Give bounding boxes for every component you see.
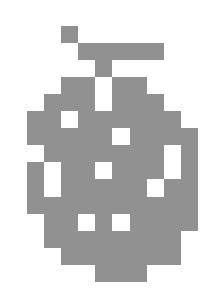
pixel-empty (44, 179, 61, 196)
pixel-empty (27, 231, 44, 248)
pixel-filled (95, 145, 112, 162)
pixel-empty (147, 77, 164, 94)
pixel-filled (61, 26, 78, 43)
pixel-filled (112, 179, 129, 196)
pixel-empty (181, 265, 198, 282)
pixel-filled (164, 128, 181, 145)
pixel-filled (130, 145, 147, 162)
pixel-filled (112, 111, 129, 128)
pixel-filled (27, 162, 44, 179)
pixel-empty (78, 214, 95, 231)
pixel-empty (44, 162, 61, 179)
pixel-filled (78, 111, 95, 128)
pixel-empty (27, 248, 44, 265)
pixel-empty (147, 26, 164, 43)
pixel-filled (130, 77, 147, 94)
pixel-filled (130, 214, 147, 231)
pixel-empty (112, 60, 129, 77)
pixel-empty (61, 265, 78, 282)
pixel-filled (112, 94, 129, 111)
pixel-empty (44, 265, 61, 282)
pixel-filled (44, 231, 61, 248)
pixel-filled (78, 162, 95, 179)
pixel-empty (181, 248, 198, 265)
pixel-filled (78, 231, 95, 248)
pixel-empty (44, 26, 61, 43)
pixel-filled (130, 179, 147, 196)
pixel-filled (112, 145, 129, 162)
pixel-filled (95, 214, 112, 231)
pixel-empty (78, 265, 95, 282)
pixel-filled (61, 197, 78, 214)
pixel-filled (130, 162, 147, 179)
pixel-filled (78, 179, 95, 196)
pixel-filled (147, 94, 164, 111)
pixel-filled (164, 179, 181, 196)
pixel-filled (112, 231, 129, 248)
pixel-empty (44, 43, 61, 60)
pixel-empty (95, 162, 112, 179)
pixel-filled (95, 60, 112, 77)
pixel-filled (44, 111, 61, 128)
pixel-empty (164, 162, 181, 179)
pixel-empty (164, 26, 181, 43)
pixel-filled (147, 231, 164, 248)
pixel-empty (95, 77, 112, 94)
pixel-filled (95, 128, 112, 145)
pixel-empty (147, 179, 164, 196)
pixel-filled (130, 43, 147, 60)
pixel-empty (78, 60, 95, 77)
pixel-filled (112, 162, 129, 179)
pixel-empty (164, 43, 181, 60)
pixel-empty (112, 214, 129, 231)
pixel-filled (27, 128, 44, 145)
pixel-filled (95, 43, 112, 60)
pixel-filled (78, 145, 95, 162)
pixel-empty (27, 26, 44, 43)
pixel-grid (27, 26, 198, 283)
pixel-filled (164, 197, 181, 214)
pixel-empty (95, 26, 112, 43)
pixel-empty (181, 43, 198, 60)
pixel-filled (27, 179, 44, 196)
pixel-empty (181, 231, 198, 248)
pixel-empty (27, 77, 44, 94)
pixel-empty (164, 265, 181, 282)
pixel-filled (78, 94, 95, 111)
pixel-filled (130, 197, 147, 214)
pixel-empty (44, 77, 61, 94)
pixel-filled (130, 265, 147, 282)
pixel-filled (78, 77, 95, 94)
pixel-filled (78, 128, 95, 145)
pixel-filled (164, 248, 181, 265)
pixel-filled (61, 77, 78, 94)
pixel-empty (61, 60, 78, 77)
pixel-filled (164, 111, 181, 128)
pixel-filled (44, 94, 61, 111)
pixel-empty (164, 77, 181, 94)
pixel-empty (27, 94, 44, 111)
pixel-empty (61, 111, 78, 128)
pixel-filled (95, 231, 112, 248)
pixel-filled (147, 162, 164, 179)
pixel-filled (95, 111, 112, 128)
pixel-filled (27, 197, 44, 214)
pixel-filled (130, 231, 147, 248)
pixel-empty (164, 60, 181, 77)
pixel-filled (164, 231, 181, 248)
pixel-empty (112, 26, 129, 43)
pixel-filled (78, 43, 95, 60)
pixel-empty (181, 111, 198, 128)
pixel-filled (130, 111, 147, 128)
pixel-filled (147, 43, 164, 60)
pixel-filled (44, 214, 61, 231)
pixel-filled (181, 162, 198, 179)
pixel-filled (61, 179, 78, 196)
pixel-empty (95, 94, 112, 111)
pixel-filled (61, 94, 78, 111)
pixel-filled (130, 94, 147, 111)
pixel-filled (95, 197, 112, 214)
pixel-filled (112, 197, 129, 214)
pixel-filled (61, 145, 78, 162)
pixel-empty (130, 60, 147, 77)
